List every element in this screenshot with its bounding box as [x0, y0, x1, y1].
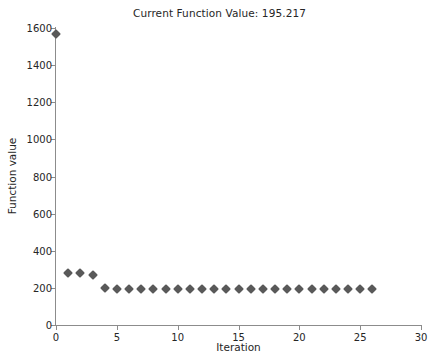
- y-tick-label: 800: [33, 171, 52, 182]
- x-tick-mark: [56, 325, 57, 330]
- figure-canvas: Current Function Value: 195.217 02004006…: [0, 0, 439, 363]
- y-tick-label: 200: [33, 282, 52, 293]
- x-tick-mark: [299, 325, 300, 330]
- x-tick-mark: [421, 325, 422, 330]
- data-point-marker: [75, 268, 85, 278]
- y-tick-label: 0: [46, 320, 52, 331]
- data-point-marker: [319, 284, 329, 294]
- y-axis-label: Function value: [6, 138, 18, 215]
- x-tick-mark: [117, 325, 118, 330]
- x-tick-mark: [360, 325, 361, 330]
- x-tick-mark: [239, 325, 240, 330]
- data-point-marker: [197, 284, 207, 294]
- data-point-marker: [307, 284, 317, 294]
- data-point-marker: [100, 283, 110, 293]
- x-tick-mark: [178, 325, 179, 330]
- data-point-marker: [270, 284, 280, 294]
- data-point-marker: [51, 29, 61, 39]
- data-point-marker: [246, 284, 256, 294]
- y-tick-label: 400: [33, 245, 52, 256]
- data-point-marker: [355, 284, 365, 294]
- data-point-marker: [63, 268, 73, 278]
- data-point-marker: [234, 284, 244, 294]
- plot-area: 02004006008001000120014001600 0510152025…: [56, 28, 421, 325]
- data-point-marker: [367, 284, 377, 294]
- data-point-marker: [343, 284, 353, 294]
- y-tick-label: 1400: [27, 60, 52, 71]
- data-point-marker: [173, 284, 183, 294]
- data-point-marker: [124, 284, 134, 294]
- chart-title: Current Function Value: 195.217: [0, 7, 439, 19]
- data-point-marker: [331, 284, 341, 294]
- data-point-marker: [136, 284, 146, 294]
- y-tick-label: 1600: [27, 23, 52, 34]
- data-point-marker: [112, 284, 122, 294]
- y-tick-label: 1000: [27, 134, 52, 145]
- data-point-marker: [209, 284, 219, 294]
- data-point-marker: [148, 284, 158, 294]
- x-axis-label: Iteration: [56, 341, 421, 353]
- data-point-marker: [161, 284, 171, 294]
- data-point-marker: [294, 284, 304, 294]
- data-point-marker: [258, 284, 268, 294]
- data-point-marker: [282, 284, 292, 294]
- y-tick-label: 600: [33, 208, 52, 219]
- data-point-marker: [185, 284, 195, 294]
- data-point-marker: [221, 284, 231, 294]
- y-tick-label: 1200: [27, 97, 52, 108]
- data-point-marker: [88, 270, 98, 280]
